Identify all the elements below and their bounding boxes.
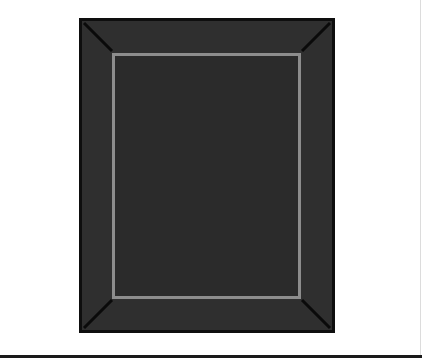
right-edge-divider (420, 0, 421, 355)
rug-inner-border (112, 53, 301, 299)
rug (79, 18, 335, 333)
